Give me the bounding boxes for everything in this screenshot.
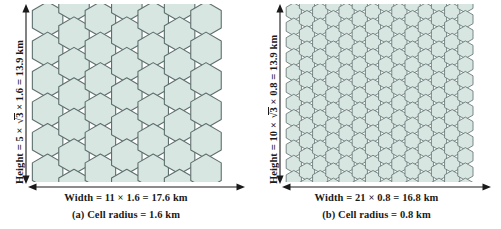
height-label-b-multiplier: 0.8 xyxy=(268,82,279,95)
hex-grid-a xyxy=(30,4,245,182)
hex-grid-b xyxy=(285,4,491,182)
height-label-a-equals: = 13.9 km xyxy=(14,40,25,85)
height-label-b-times2: × xyxy=(268,99,279,105)
sqrt-symbol-icon-b: √3 xyxy=(268,107,279,119)
height-label-a-multiplier: 1.6 xyxy=(14,88,25,101)
height-label-a-prefix: Height = 5 xyxy=(14,133,25,184)
height-label-b-radicand: 3 xyxy=(268,107,279,112)
panel-b: Height = 10 × √3 × 0.8 = 13.9 km Width =… xyxy=(252,0,501,229)
height-label-b-times1: × xyxy=(268,122,279,128)
subcaption-a: (a) Cell radius = 1.6 km xyxy=(0,209,252,220)
height-label-a-times1: × xyxy=(14,128,25,134)
height-label-b: Height = 10 × √3 × 0.8 = 13.9 km xyxy=(268,35,279,184)
height-label-b-equals: = 13.9 km xyxy=(268,35,279,80)
subcaption-b: (b) Cell radius = 0.8 km xyxy=(252,209,501,220)
height-label-a-radicand: 3 xyxy=(14,112,25,117)
height-label-b-prefix: Height = 10 xyxy=(268,128,279,184)
height-label-a: Height = 5 × √3 × 1.6 = 13.9 km xyxy=(14,40,25,184)
panel-a: Height = 5 × √3 × 1.6 = 13.9 km Width = … xyxy=(0,0,252,229)
hexagon-coverage-figure: Height = 5 × √3 × 1.6 = 13.9 km Width = … xyxy=(0,0,501,229)
height-label-a-times2: × xyxy=(14,104,25,110)
width-label-b: Width = 21 × 0.8 = 16.8 km xyxy=(252,192,501,203)
sqrt-symbol-icon-a: √3 xyxy=(14,112,25,124)
width-label-a: Width = 11 × 1.6 = 17.6 km xyxy=(0,192,252,203)
